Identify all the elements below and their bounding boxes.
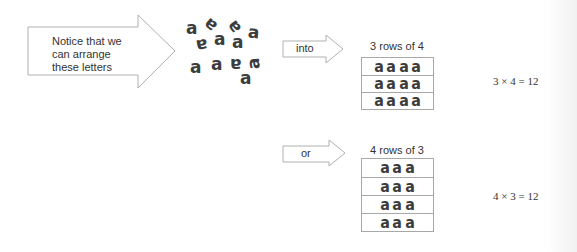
grid-letter: a [381, 159, 391, 177]
grid-letter: a [381, 178, 391, 196]
or-arrow-shape [0, 0, 577, 252]
grid-row: aaa [362, 159, 433, 177]
or-arrow-label: or [301, 147, 311, 160]
grid-row: aaa [362, 195, 433, 213]
equation-4x3: 4 × 3 = 12 [493, 190, 538, 202]
grid-letter: a [393, 196, 403, 214]
grid-letter: a [393, 214, 403, 232]
grid-row: aaa [362, 177, 433, 195]
grid-row: aaa [362, 213, 433, 231]
grid-letter: a [405, 178, 415, 196]
grid-letter: a [381, 196, 391, 214]
grid-letter: a [393, 159, 403, 177]
grid-letter: a [393, 178, 403, 196]
grid-letter: a [405, 196, 415, 214]
grid-letter: a [405, 214, 415, 232]
grid-letter: a [381, 214, 391, 232]
grid-letter: a [405, 159, 415, 177]
letter-grid-4x3: aaaaaaaaaaaa [361, 158, 434, 232]
grid-title-4x3: 4 rows of 3 [361, 144, 433, 156]
